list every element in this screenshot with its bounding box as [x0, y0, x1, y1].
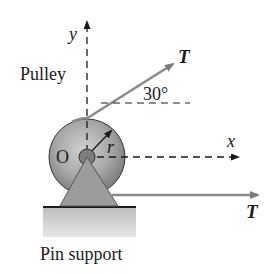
- pulley-diagram: y Pulley T 30° x O r T Pin support: [0, 0, 278, 274]
- radius-label: r: [107, 137, 115, 157]
- pin-support-label: Pin support: [40, 244, 123, 264]
- tension-lower-label: T: [246, 201, 259, 222]
- pulley-label: Pulley: [20, 64, 66, 84]
- ground-block: [43, 207, 136, 237]
- tension-upper-label: T: [178, 46, 191, 67]
- origin-label: O: [56, 147, 69, 167]
- y-axis-label: y: [67, 24, 77, 44]
- angle-label: 30°: [143, 84, 168, 104]
- x-axis-label: x: [226, 131, 235, 151]
